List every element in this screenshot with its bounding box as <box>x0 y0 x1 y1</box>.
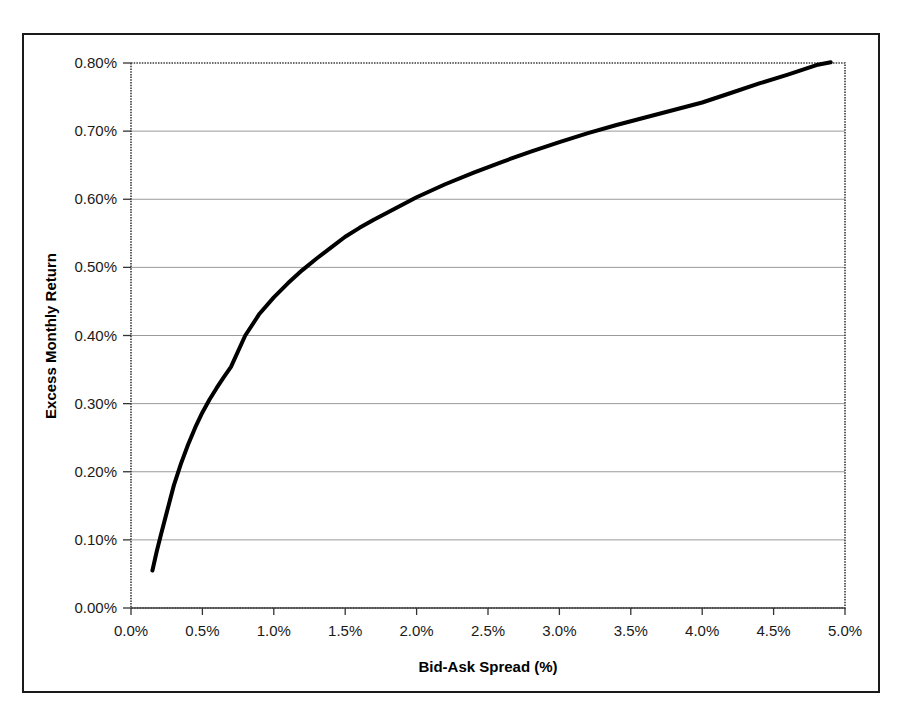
y-tick-label: 0.60% <box>74 190 117 207</box>
y-axis-tick-labels: 0.00%0.10%0.20%0.30%0.40%0.50%0.60%0.70%… <box>74 54 117 616</box>
x-tick-label: 1.0% <box>257 622 291 639</box>
x-tick-label: 5.0% <box>828 622 862 639</box>
gridlines <box>131 131 845 540</box>
x-tick-label: 3.5% <box>614 622 648 639</box>
y-axis-ticks <box>123 63 131 608</box>
data-series-line <box>152 62 830 570</box>
y-tick-label: 0.00% <box>74 599 117 616</box>
x-tick-label: 1.5% <box>328 622 362 639</box>
y-tick-label: 0.30% <box>74 395 117 412</box>
line-chart: 0.0%0.5%1.0%1.5%2.0%2.5%3.0%3.5%4.0%4.5%… <box>0 0 902 726</box>
x-tick-label: 4.0% <box>685 622 719 639</box>
y-tick-label: 0.70% <box>74 122 117 139</box>
x-tick-label: 3.0% <box>542 622 576 639</box>
y-tick-label: 0.50% <box>74 258 117 275</box>
x-axis-title: Bid-Ask Spread (%) <box>418 658 557 675</box>
x-tick-label: 4.5% <box>756 622 790 639</box>
x-tick-label: 0.5% <box>185 622 219 639</box>
y-axis-title: Excess Monthly Return <box>42 253 59 419</box>
y-tick-label: 0.20% <box>74 463 117 480</box>
x-axis-ticks <box>131 608 845 615</box>
y-tick-label: 0.80% <box>74 54 117 71</box>
series-line <box>152 62 830 570</box>
chart-figure: 0.0%0.5%1.0%1.5%2.0%2.5%3.0%3.5%4.0%4.5%… <box>0 0 902 726</box>
y-tick-label: 0.10% <box>74 531 117 548</box>
x-axis-tick-labels: 0.0%0.5%1.0%1.5%2.0%2.5%3.0%3.5%4.0%4.5%… <box>114 622 862 639</box>
x-tick-label: 0.0% <box>114 622 148 639</box>
y-tick-label: 0.40% <box>74 327 117 344</box>
x-tick-label: 2.5% <box>471 622 505 639</box>
x-tick-label: 2.0% <box>399 622 433 639</box>
